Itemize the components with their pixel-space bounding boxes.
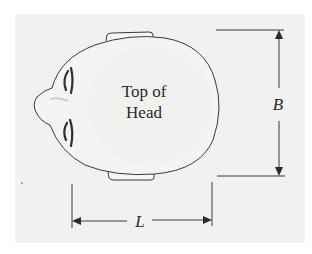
head-dimension-diagram: Top of Head B L bbox=[0, 0, 312, 254]
length-label: L bbox=[134, 212, 144, 231]
breadth-label: B bbox=[273, 95, 284, 114]
length-arrow-left-icon bbox=[72, 217, 81, 225]
head-label-line1: Top of bbox=[122, 82, 167, 101]
length-arrow-right-icon bbox=[203, 216, 212, 224]
breadth-arrow-up-icon bbox=[275, 30, 283, 39]
speck bbox=[21, 182, 23, 184]
head-label-line2: Head bbox=[126, 103, 162, 122]
breadth-arrow-down-icon bbox=[275, 167, 283, 176]
